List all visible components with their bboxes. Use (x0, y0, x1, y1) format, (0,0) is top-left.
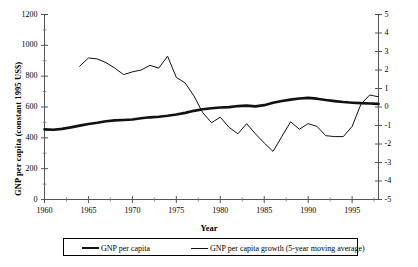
y-axis-right-tick-label: 3 (385, 47, 405, 56)
legend-item-gnp-per-capita: GNP per capita (82, 239, 150, 257)
y-axis-left-tick-label: 1200 (12, 10, 38, 19)
y-axis-right-tick-label: -1 (385, 121, 405, 130)
y-axis-right-tick-label: 2 (385, 65, 405, 74)
y-axis-right-tick-label: 0 (385, 102, 405, 111)
y-axis-left-tick-label: 400 (12, 133, 38, 142)
y-axis-right-tick-label: 1 (385, 84, 405, 93)
y-axis-left-tick-label: 1000 (12, 40, 38, 49)
y-axis-left-tick-label: 200 (12, 164, 38, 173)
x-axis-tick-label: 1980 (200, 206, 240, 215)
y-axis-right-tick-label: -2 (385, 139, 405, 148)
y-axis-right-tick-label: -5 (385, 195, 405, 204)
x-axis-tick-label: 1970 (112, 206, 152, 215)
y-axis-right-tick-label: -4 (385, 176, 405, 185)
x-axis-tick-label: 1960 (25, 206, 65, 215)
y-axis-left-tick-label: 800 (12, 71, 38, 80)
legend-swatch-thick-line (82, 247, 99, 249)
y-axis-right-tick-label: -3 (385, 158, 405, 167)
y-axis-right-tick-label: 4 (385, 28, 405, 37)
legend-label-0: GNP per capita (101, 244, 150, 253)
plot-area (0, 0, 418, 267)
y-axis-left-tick-label: 0 (12, 195, 38, 204)
x-axis-tick-label: 1995 (332, 206, 372, 215)
series-line-gnp-per-capita (45, 98, 379, 130)
x-axis-tick-label: 1990 (288, 206, 328, 215)
x-axis-tick-label: 1965 (68, 206, 108, 215)
y-axis-right-tick-label: 5 (385, 10, 405, 19)
legend-item-gnp-growth: GNP per capita growth (5-year moving ave… (191, 239, 365, 257)
x-axis-tick-label: 1985 (244, 206, 284, 215)
legend-swatch-thin-line (191, 248, 208, 249)
legend-label-1: GNP per capita growth (5-year moving ave… (210, 244, 365, 253)
chart-figure: GNP per capita (constant 1995 US$) GNP p… (0, 0, 418, 267)
chart-legend: GNP per capita GNP per capita growth (5-… (63, 238, 358, 256)
x-axis-tick-label: 1975 (156, 206, 196, 215)
series-line-gnp-growth (80, 56, 379, 151)
y-axis-left-tick-label: 600 (12, 102, 38, 111)
